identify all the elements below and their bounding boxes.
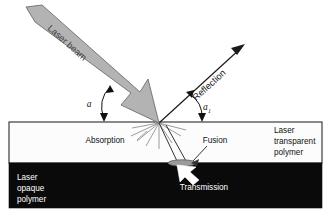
transmission-label: Transmission	[180, 183, 229, 192]
angle-of-incidence-marker	[100, 85, 114, 122]
laser-welding-diagram: Laser beam Reflection a a 1	[0, 0, 332, 217]
angle-of-reflection-subscript: 1	[208, 108, 211, 114]
angle-of-incidence-label: a	[87, 99, 92, 109]
transparent-polymer-line-2: transparent	[274, 137, 316, 146]
figure-canvas: Laser beam Reflection a a 1	[0, 0, 332, 217]
laser-opaque-polymer-layer	[9, 163, 322, 208]
opaque-polymer-line-2: opaque	[17, 184, 45, 193]
transparent-polymer-line-1: Laser	[274, 126, 295, 135]
angle-of-reflection-label-group: a 1	[203, 102, 211, 114]
laser-beam-arrow	[26, 5, 159, 123]
opaque-polymer-line-3: polymer	[17, 195, 46, 204]
reflection-label: Reflection	[191, 68, 228, 103]
absorption-label: Absorption	[85, 136, 125, 145]
opaque-polymer-line-1: Laser	[17, 173, 38, 182]
fusion-label: Fusion	[203, 136, 228, 145]
transparent-polymer-line-3: polymer	[274, 148, 303, 157]
